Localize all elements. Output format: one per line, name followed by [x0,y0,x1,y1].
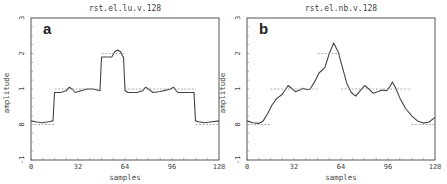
panel-label: a [43,20,52,37]
reconstruction-curve [31,50,219,123]
x-tick-label: 32 [74,163,82,171]
x-axis-label: samples [109,173,141,182]
chart-panel-b: rst.el.nb.v.1280326496128-10123samplesam… [218,4,441,182]
x-axis-label: samples [325,173,357,182]
x-tick-label: 0 [245,163,249,171]
chart-title: rst.el.nb.v.128 [305,4,377,13]
x-tick-label: 64 [337,163,345,171]
x-tick-label: 32 [290,163,298,171]
reconstruction-curve [247,43,435,124]
y-tick-label: -1 [234,156,242,164]
y-tick-label: 3 [18,16,26,20]
x-tick-label: 128 [429,163,442,171]
y-tick-label: 2 [18,51,26,55]
y-tick-label: 0 [18,122,26,126]
y-tick-label: 1 [18,87,26,91]
y-tick-label: -1 [18,156,26,164]
x-tick-label: 64 [121,163,129,171]
x-tick-label: 96 [384,163,392,171]
y-tick-label: 2 [234,51,242,55]
x-tick-label: 0 [29,163,33,171]
chart-panel-a: rst.el.lu.v.1280326496128-10123samplesam… [2,4,225,182]
y-axis-label: amplitude [2,72,11,113]
y-tick-label: 3 [234,16,242,20]
chart-title: rst.el.lu.v.128 [89,4,161,13]
x-tick-label: 128 [213,163,226,171]
y-tick-label: 0 [234,122,242,126]
chart-figure: rst.el.lu.v.1280326496128-10123samplesam… [0,0,447,184]
panel-label: b [259,20,268,37]
y-tick-label: 1 [234,87,242,91]
x-tick-label: 96 [168,163,176,171]
y-axis-label: amplitude [218,72,227,113]
